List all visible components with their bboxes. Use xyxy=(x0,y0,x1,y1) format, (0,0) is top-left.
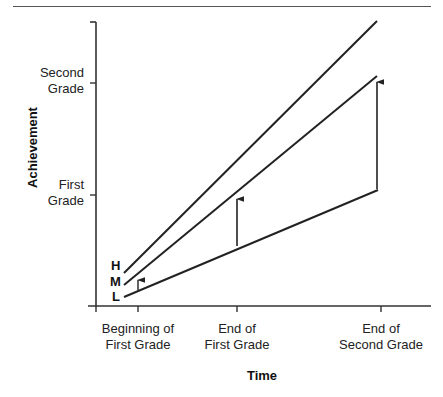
x-tick-3-line1: End of xyxy=(331,321,431,337)
series-label-h: H xyxy=(111,258,120,273)
x-tick-1-line1: Beginning of xyxy=(93,321,183,337)
y-tick-second-line1: Second xyxy=(22,65,84,81)
series-label-m: M xyxy=(110,274,121,289)
series-line-h xyxy=(124,21,377,273)
x-tick-beginning-first: Beginning of First Grade xyxy=(93,321,183,353)
series-label-l: L xyxy=(112,289,120,304)
x-tick-end-first: End of First Grade xyxy=(192,321,282,353)
y-axis-title: Achievement xyxy=(25,98,40,198)
x-tick-3-line2: Second Grade xyxy=(331,337,431,353)
series-line-l xyxy=(124,190,378,297)
x-tick-2-line1: End of xyxy=(192,321,282,337)
y-axis xyxy=(90,22,96,307)
x-axis xyxy=(88,306,431,312)
series-line-m xyxy=(124,76,377,285)
x-tick-2-line2: First Grade xyxy=(192,337,282,353)
x-tick-end-second: End of Second Grade xyxy=(331,321,431,353)
x-axis-title: Time xyxy=(232,368,292,383)
y-tick-second-grade: Second Grade xyxy=(22,65,84,97)
y-tick-second-line2: Grade xyxy=(22,81,84,97)
x-tick-1-line2: First Grade xyxy=(93,337,183,353)
